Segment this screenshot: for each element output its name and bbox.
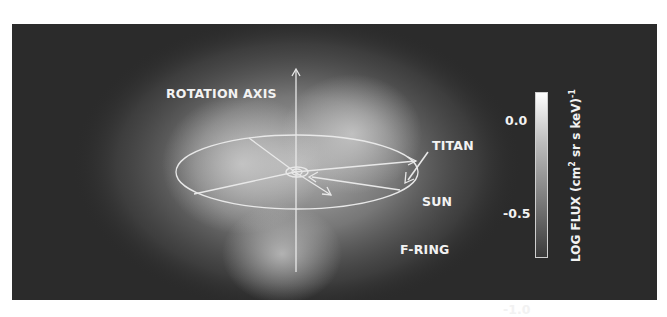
colorbar-tick-mid: -0.5: [503, 206, 530, 221]
colorbar-tick-max: 0.0: [505, 113, 527, 128]
colorbar-title: LOG FLUX (cm2 sr s keV)-1: [568, 89, 583, 262]
f-ring-label: F-RING: [400, 242, 450, 257]
titan-label: TITAN: [432, 138, 474, 153]
sun-label: SUN: [422, 194, 452, 209]
rotation-axis-label: ROTATION AXIS: [166, 86, 277, 101]
colorbar-tick-min: -1.0: [503, 302, 530, 317]
colorbar: [535, 92, 548, 258]
